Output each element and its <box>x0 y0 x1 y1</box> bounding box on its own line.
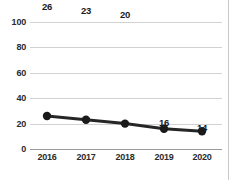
point-label-2017: 23 <box>69 5 103 16</box>
x-tick-2017: 2017 <box>64 152 108 162</box>
y-tick-80: 80 <box>0 42 26 52</box>
data-point-2018 <box>121 119 129 127</box>
y-axis-labels: 100 80 60 40 20 0 <box>0 0 26 180</box>
x-tick-2016: 2016 <box>25 152 69 162</box>
x-tick-2020: 2020 <box>180 152 224 162</box>
data-point-2016 <box>43 112 51 120</box>
point-label-2018: 20 <box>108 9 142 20</box>
y-tick-40: 40 <box>0 93 26 103</box>
y-tick-20: 20 <box>0 119 26 129</box>
y-tick-60: 60 <box>0 68 26 78</box>
series-markers <box>43 112 206 136</box>
y-tick-100: 100 <box>0 17 26 27</box>
x-axis-labels: 2016 2017 2018 2019 2020 <box>30 152 222 166</box>
data-point-2017 <box>82 116 90 124</box>
y-tick-0: 0 <box>0 144 26 154</box>
x-tick-2018: 2018 <box>103 152 147 162</box>
chart-screenshot: 100 80 60 40 20 0 26 23 20 16 14 2016 20… <box>0 0 238 180</box>
axis-baseline-0 <box>30 149 222 150</box>
point-label-2016: 26 <box>30 1 64 12</box>
plot-area: 26 23 20 16 14 <box>30 22 222 149</box>
point-label-2020: 14 <box>185 122 219 133</box>
page-right-border <box>228 0 229 180</box>
point-label-2019: 16 <box>147 117 181 128</box>
